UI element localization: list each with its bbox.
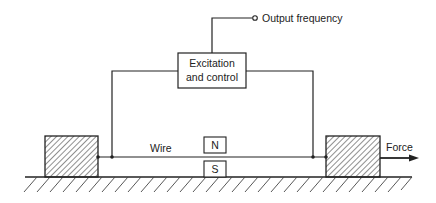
diagram-canvas: Excitation and control Output frequency … xyxy=(0,0,436,203)
wire-label: Wire xyxy=(150,142,172,154)
north-label: N xyxy=(211,139,219,151)
output-frequency-label: Output frequency xyxy=(262,12,343,24)
control-label-line2: and control xyxy=(186,71,238,83)
right-movable-block xyxy=(326,136,380,177)
ground xyxy=(24,177,412,192)
wire-right-attach-dot xyxy=(324,155,328,159)
output-lead xyxy=(212,18,252,53)
force-label: Force xyxy=(386,141,413,153)
right-lead xyxy=(246,71,313,157)
control-label-line1: Excitation xyxy=(189,57,235,69)
south-label: S xyxy=(211,163,218,175)
force-arrowhead-icon xyxy=(409,155,419,162)
output-terminal-icon xyxy=(253,16,258,21)
left-anchor-block xyxy=(45,136,98,177)
wire-left-attach-dot xyxy=(96,155,100,159)
